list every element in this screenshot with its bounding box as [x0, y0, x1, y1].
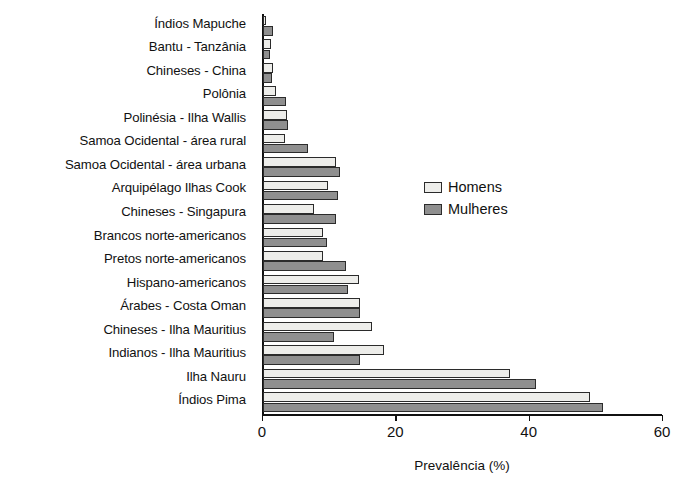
- bar-homens: [263, 251, 323, 261]
- bar-mulheres: [263, 308, 360, 318]
- bar-mulheres: [263, 214, 336, 224]
- category-label: Chineses - Singapura: [121, 205, 246, 219]
- bar-homens: [263, 392, 590, 402]
- bar-mulheres: [263, 97, 286, 107]
- bar-mulheres: [263, 167, 340, 177]
- bar-mulheres: [263, 238, 327, 248]
- category-label: Chineses - Ilha Mauritius: [103, 323, 246, 337]
- legend-swatch-homens-icon: [424, 182, 442, 193]
- x-tick-0: [262, 415, 263, 421]
- legend-label-homens: Homens: [448, 179, 502, 195]
- bar-homens: [263, 181, 328, 191]
- x-tick-label-40: 40: [520, 423, 537, 440]
- bar-homens: [263, 157, 336, 167]
- bar-mulheres: [263, 73, 272, 83]
- category-label: Chineses - China: [146, 64, 246, 78]
- bar-homens: [263, 39, 271, 49]
- bar-homens: [263, 204, 314, 214]
- bar-homens: [263, 345, 384, 355]
- x-tick-60: [662, 415, 663, 421]
- bar-mulheres: [263, 332, 334, 342]
- category-label: Brancos norte-americanos: [94, 229, 246, 243]
- x-tick-label-20: 20: [387, 423, 404, 440]
- x-tick-20: [395, 415, 396, 421]
- bar-mulheres: [263, 120, 288, 130]
- bar-mulheres: [263, 191, 338, 201]
- bar-mulheres: [263, 261, 346, 271]
- category-label: Árabes - Costa Oman: [120, 299, 246, 313]
- bar-mulheres: [263, 379, 536, 389]
- bar-homens: [263, 63, 273, 73]
- bar-homens: [263, 275, 359, 285]
- category-label: Pretos norte-americanos: [104, 252, 246, 266]
- bar-mulheres: [263, 403, 603, 413]
- x-axis-title: Prevalência (%): [414, 458, 509, 473]
- category-label-list: Índios MapucheBantu - TanzâniaChineses -…: [0, 12, 252, 414]
- category-label: Hispano-americanos: [127, 276, 246, 290]
- bar-homens: [263, 228, 323, 238]
- category-label: Índios Mapuche: [154, 17, 246, 31]
- bar-mulheres: [263, 144, 308, 154]
- bar-mulheres: [263, 355, 360, 365]
- bar-homens: [263, 369, 510, 379]
- legend-item-mulheres: Mulheres: [424, 198, 564, 220]
- category-label: Bantu - Tanzânia: [149, 40, 246, 54]
- x-tick-40: [529, 415, 530, 421]
- legend-item-homens: Homens: [424, 176, 564, 198]
- category-label: Samoa Ocidental - área rural: [79, 134, 246, 148]
- legend-swatch-mulheres-icon: [424, 204, 442, 215]
- category-label: Polônia: [203, 87, 246, 101]
- bar-homens: [263, 110, 287, 120]
- bar-mulheres: [263, 26, 273, 36]
- category-label: Índios Pima: [178, 393, 246, 407]
- category-label: Polinésia - Ilha Wallis: [123, 111, 246, 125]
- x-tick-label-0: 0: [258, 423, 266, 440]
- bar-mulheres: [263, 285, 348, 295]
- category-label: Samoa Ocidental - área urbana: [65, 158, 246, 172]
- bar-homens: [263, 16, 266, 26]
- chart-legend: Homens Mulheres: [424, 176, 564, 220]
- bar-homens: [263, 134, 285, 144]
- category-label: Arquipélago Ilhas Cook: [112, 181, 246, 195]
- bar-mulheres: [263, 50, 270, 60]
- bar-homens: [263, 298, 360, 308]
- prevalence-bar-chart: Índios MapucheBantu - TanzâniaChineses -…: [0, 0, 687, 483]
- x-axis-line: [262, 414, 662, 416]
- bar-homens: [263, 322, 372, 332]
- bar-homens: [263, 86, 276, 96]
- x-tick-label-60: 60: [654, 423, 671, 440]
- category-label: Indianos - Ilha Mauritius: [108, 346, 246, 360]
- legend-label-mulheres: Mulheres: [448, 201, 508, 217]
- category-label: Ilha Nauru: [186, 370, 246, 384]
